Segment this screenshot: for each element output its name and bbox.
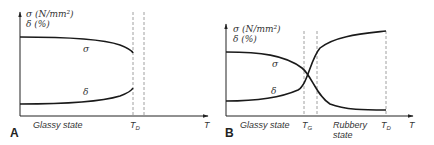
y-axis-label-1: σ (N/mm²) <box>26 9 74 19</box>
diagram: σ (N/mm²) δ (%) σ δ Glassy state TD T A … <box>0 0 434 145</box>
glassy-state-label: Glassy state <box>240 120 290 130</box>
rubbery-state-label-1: Rubbery <box>333 120 368 130</box>
panel-a: σ (N/mm²) δ (%) σ δ Glassy state TD T A <box>10 9 211 140</box>
panel-label-b: B <box>225 126 234 140</box>
delta-curve <box>20 88 133 104</box>
y-axis-label-1: σ (N/mm²) <box>233 24 281 34</box>
rubbery-state-label-2: state <box>333 130 353 140</box>
y-axis-label-2: δ (%) <box>26 19 50 29</box>
sigma-curve <box>226 52 386 110</box>
sigma-label: σ <box>83 44 90 54</box>
y-axis-label-2: δ (%) <box>233 34 257 44</box>
delta-label: δ <box>83 87 88 97</box>
td-label: TD <box>381 120 392 131</box>
glassy-state-label: Glassy state <box>33 120 83 130</box>
x-axis-label: T <box>204 120 211 130</box>
x-axis-label: T <box>409 120 416 130</box>
sigma-label: σ <box>272 59 279 69</box>
panel-b: σ (N/mm²) δ (%) σ δ Glassy state TG Rubb… <box>225 24 416 140</box>
panel-label-a: A <box>10 126 19 140</box>
delta-label: δ <box>271 86 276 96</box>
sigma-curve <box>20 37 133 53</box>
td-label: TD <box>130 120 141 131</box>
tg-label: TG <box>302 120 313 131</box>
